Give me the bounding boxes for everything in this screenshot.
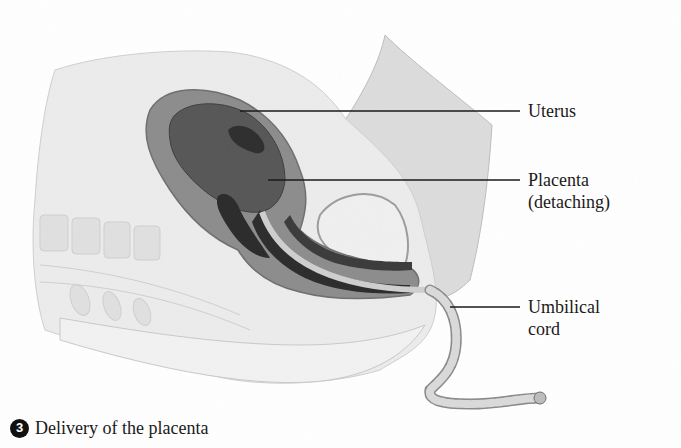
label-placenta-line1: Placenta — [528, 169, 610, 191]
caption-text: Delivery of the placenta — [35, 417, 208, 439]
step-number-badge: 3 — [10, 419, 29, 438]
label-umbilical-cord-line2: cord — [528, 318, 600, 340]
label-uterus-text: Uterus — [528, 101, 576, 121]
anatomical-illustration — [0, 0, 681, 448]
figure-caption: 3 Delivery of the placenta — [10, 417, 208, 439]
label-uterus: Uterus — [528, 100, 576, 122]
label-placenta-line2: (detaching) — [528, 191, 610, 213]
label-umbilical-cord-line1: Umbilical — [528, 296, 600, 318]
label-placenta: Placenta (detaching) — [528, 169, 610, 213]
label-umbilical-cord: Umbilical cord — [528, 296, 600, 340]
